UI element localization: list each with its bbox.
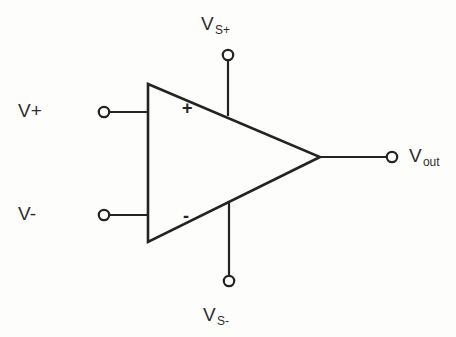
vs-minus-label-base: V — [203, 304, 216, 325]
vs-plus-label: VS+ — [201, 14, 229, 33]
v-out-label-base: V — [409, 145, 422, 166]
vs-plus-label-base: V — [201, 13, 214, 34]
v-minus-label: V- — [18, 204, 36, 223]
opamp-schematic-canvas — [0, 0, 456, 337]
non-inverting-input-plus-sign: + — [182, 99, 193, 117]
v-minus-label-base: V- — [18, 203, 36, 224]
v-plus-label: V+ — [18, 101, 42, 120]
amplifier-body-triangle — [148, 84, 320, 242]
v-out-label: Vout — [409, 146, 439, 165]
vs-minus-label-subscript: S- — [217, 314, 229, 328]
v-plus-label-base: V+ — [18, 100, 42, 121]
inverting-input-minus-sign: - — [183, 207, 189, 225]
opamp-diagram: + - V+ V- VS+ VS- Vout — [0, 0, 456, 337]
v-plus-terminal-node[interactable] — [99, 107, 109, 117]
vs-minus-label: VS- — [203, 305, 228, 324]
v-minus-terminal-node[interactable] — [99, 210, 109, 220]
vs-plus-label-subscript: S+ — [215, 23, 230, 37]
v-out-label-subscript: out — [423, 155, 440, 169]
vs-plus-terminal-node[interactable] — [223, 50, 233, 60]
vs-minus-terminal-node[interactable] — [224, 276, 234, 286]
v-out-terminal-node[interactable] — [387, 152, 397, 162]
